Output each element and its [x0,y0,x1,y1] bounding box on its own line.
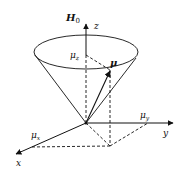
precession-cone-diagram: H0 z μz μ μy y μx x [0,0,181,177]
mu-x-dashed [30,146,110,147]
origin-point [85,122,88,125]
h0-label: H0 [65,12,80,25]
mu-y-label: μy [140,110,150,122]
z-axis-label: z [93,21,99,31]
cone-left-edge [35,55,86,123]
x-axis [16,123,86,154]
mu-y-dashed [110,123,148,146]
xy-projection-dashed [86,123,110,146]
mu-label: μ [110,57,117,68]
x-axis-label: x [16,158,21,168]
y-axis-label: y [162,128,169,138]
mu-x-label: μx [31,130,41,141]
mu-z-label: μz [70,50,80,61]
